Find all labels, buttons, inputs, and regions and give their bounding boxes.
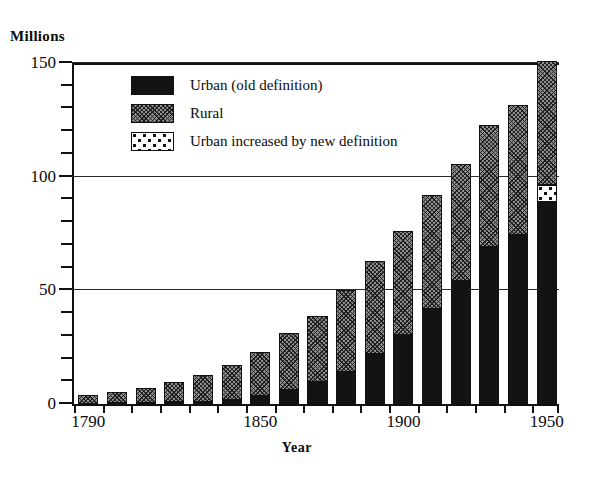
bar-segment-newdef-1950 — [537, 185, 557, 202]
legend-label-urban: Urban (old definition) — [190, 77, 322, 94]
bar-1840[interactable] — [222, 365, 242, 404]
y-tick-label-150: 150 — [31, 53, 57, 73]
y-tick-100 — [59, 175, 72, 177]
bar-segment-rural-1900 — [393, 231, 413, 335]
y-tick-70 — [61, 243, 72, 245]
legend-item-new-definition: Urban increased by new definition — [131, 128, 431, 154]
y-tick-10 — [61, 379, 72, 381]
x-axis-line — [72, 404, 559, 406]
y-tick-label-100: 100 — [31, 167, 57, 187]
bar-segment-rural-1840 — [222, 365, 242, 400]
chart-figure: Millions 050100150 1790185019001950 Year… — [0, 0, 594, 480]
bar-segment-rural-1880 — [336, 290, 356, 372]
bar-segment-urban-1900 — [393, 335, 413, 404]
y-tick-80 — [61, 220, 72, 222]
y-tick-120 — [61, 129, 72, 131]
x-tick-1940 — [504, 406, 506, 413]
legend-item-rural: Rural — [131, 100, 431, 126]
bar-segment-rural-1820 — [164, 382, 184, 402]
y-tick-0 — [59, 402, 72, 404]
bar-1850[interactable] — [250, 352, 270, 405]
bar-1910[interactable] — [422, 195, 442, 404]
y-axis-unit-caption: Millions — [10, 28, 65, 45]
y-tick-130 — [61, 106, 72, 108]
new-definition-swatch — [131, 132, 174, 151]
bar-segment-rural-1930 — [479, 125, 499, 247]
bar-segment-urban-1860 — [279, 390, 299, 404]
bar-segment-rural-1950 — [537, 61, 557, 185]
bar-segment-rural-1860 — [279, 333, 299, 390]
y-tick-60 — [61, 266, 72, 268]
x-tick-label-1850: 1850 — [243, 412, 277, 432]
x-tick-label-1950: 1950 — [530, 412, 564, 432]
y-tick-90 — [61, 197, 72, 199]
rural-swatch — [131, 104, 174, 123]
bar-segment-urban-1940 — [508, 235, 528, 404]
y-tick-30 — [61, 334, 72, 336]
x-tick-1920 — [446, 406, 448, 413]
bar-segment-rural-1800 — [107, 392, 127, 403]
y-tick-label-50: 50 — [39, 280, 56, 300]
bar-segment-urban-1930 — [479, 247, 499, 404]
bar-segment-urban-1890 — [365, 354, 385, 404]
y-tick-50 — [59, 288, 72, 290]
bar-1860[interactable] — [279, 333, 299, 404]
bar-segment-urban-1950 — [537, 202, 557, 404]
x-tick-1830 — [189, 406, 191, 413]
bar-segment-rural-1830 — [193, 375, 213, 402]
bar-1890[interactable] — [365, 261, 385, 404]
x-tick-1890 — [360, 406, 362, 413]
bar-1790[interactable] — [78, 395, 98, 404]
bar-1900[interactable] — [393, 231, 413, 404]
chart-legend: Urban (old definition) Rural Urban incre… — [131, 72, 431, 156]
x-tick-1870 — [303, 406, 305, 413]
bar-segment-rural-1890 — [365, 261, 385, 354]
y-tick-label-0: 0 — [48, 394, 57, 414]
bar-1830[interactable] — [193, 375, 213, 404]
x-tick-1840 — [217, 406, 219, 413]
bar-1940[interactable] — [508, 105, 528, 404]
legend-label-new-definition: Urban increased by new definition — [190, 133, 397, 150]
bar-segment-rural-1810 — [136, 388, 156, 403]
y-tick-140 — [61, 84, 72, 86]
bar-1930[interactable] — [479, 125, 499, 404]
x-tick-1810 — [131, 406, 133, 413]
bar-segment-rural-1940 — [508, 105, 528, 235]
bar-segment-rural-1870 — [307, 316, 327, 381]
bar-segment-urban-1850 — [250, 396, 270, 404]
bar-segment-urban-1920 — [451, 281, 471, 404]
urban-swatch — [131, 76, 174, 95]
bar-segment-rural-1850 — [250, 352, 270, 397]
x-tick-label-1790: 1790 — [71, 412, 105, 432]
bar-1870[interactable] — [307, 316, 327, 404]
y-tick-20 — [61, 357, 72, 359]
bar-segment-urban-1840 — [222, 400, 242, 404]
bar-segment-rural-1910 — [422, 195, 442, 309]
bar-segment-urban-1870 — [307, 382, 327, 405]
x-axis-title: Year — [0, 440, 594, 456]
bar-1920[interactable] — [451, 163, 471, 404]
bar-1880[interactable] — [336, 290, 356, 404]
y-tick-150 — [59, 61, 72, 63]
bar-1800[interactable] — [107, 392, 127, 404]
bar-segment-rural-1790 — [78, 395, 98, 403]
bar-segment-rural-1920 — [451, 164, 471, 281]
bar-segment-urban-1830 — [193, 402, 213, 405]
x-tick-1820 — [160, 406, 162, 413]
bar-segment-urban-1880 — [336, 372, 356, 404]
bar-1950[interactable] — [537, 61, 557, 404]
legend-item-urban: Urban (old definition) — [131, 72, 431, 98]
bar-1810[interactable] — [136, 388, 156, 404]
bar-1820[interactable] — [164, 382, 184, 404]
x-tick-1880 — [332, 406, 334, 413]
x-tick-label-1900: 1900 — [386, 412, 420, 432]
bar-segment-urban-1910 — [422, 309, 442, 404]
legend-label-rural: Rural — [190, 105, 223, 122]
y-tick-40 — [61, 311, 72, 313]
y-tick-110 — [61, 152, 72, 154]
x-tick-1930 — [475, 406, 477, 413]
